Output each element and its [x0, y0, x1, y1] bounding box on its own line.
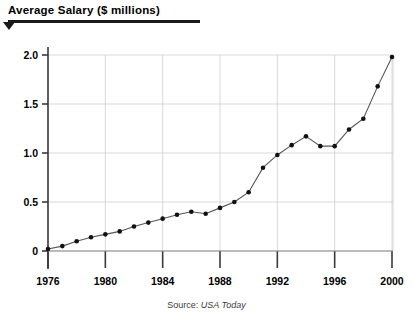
- line-chart: 00.51.01.52.0 19761980198419881992199620…: [0, 0, 413, 300]
- source-note: Source: USA Today: [0, 300, 413, 310]
- y-axis-tick-label: 2.0: [23, 49, 38, 61]
- x-axis-labels: 1976198019841988199219962000: [36, 275, 404, 287]
- y-axis-tick-label: 1.5: [23, 98, 38, 110]
- data-point: [246, 190, 251, 195]
- data-point: [117, 229, 122, 234]
- y-axis-tick-label: 0.5: [23, 196, 38, 208]
- x-axis-tick-label: 1980: [94, 275, 118, 287]
- data-point: [203, 211, 208, 216]
- data-point: [160, 216, 165, 221]
- data-point: [89, 235, 94, 240]
- x-axis-tick-label: 1976: [36, 275, 60, 287]
- data-point: [103, 232, 108, 237]
- x-axis-tick-label: 2000: [380, 275, 404, 287]
- data-point: [218, 206, 223, 211]
- y-axis-labels: 00.51.01.52.0: [23, 49, 38, 257]
- data-point: [361, 116, 366, 121]
- data-point: [375, 84, 380, 89]
- plot-area: 00.51.01.52.0 19761980198419881992199620…: [0, 0, 413, 300]
- data-point: [289, 143, 294, 148]
- data-point: [318, 144, 323, 149]
- source-label: Source:: [167, 300, 198, 310]
- y-axis-tick-label: 0: [32, 245, 38, 257]
- chart-page: Average Salary ($ millions) 00.51.01.52.…: [0, 0, 413, 320]
- data-point: [60, 244, 65, 249]
- source-name: USA Today: [201, 300, 246, 310]
- x-axis-tick-label: 1996: [323, 275, 347, 287]
- x-axis-tick-label: 1984: [151, 275, 175, 287]
- data-point: [332, 144, 337, 149]
- x-axis-tick-label: 1992: [266, 275, 290, 287]
- data-point: [175, 212, 180, 217]
- data-point: [304, 134, 309, 139]
- data-point: [261, 165, 266, 170]
- x-axis-tick-label: 1988: [208, 275, 232, 287]
- data-point: [347, 127, 352, 132]
- data-point: [189, 210, 194, 215]
- data-point: [146, 220, 151, 225]
- y-axis-tick-label: 1.0: [23, 147, 38, 159]
- gridlines: [48, 55, 393, 251]
- data-point: [390, 55, 395, 60]
- data-point: [46, 247, 51, 252]
- data-point: [132, 224, 137, 229]
- data-point: [275, 153, 280, 158]
- data-point: [74, 239, 79, 244]
- data-point: [232, 200, 237, 205]
